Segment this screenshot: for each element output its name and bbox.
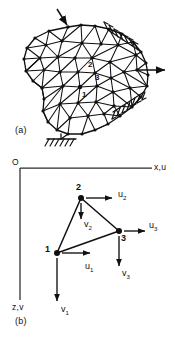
dof-sub-v2: 2 (89, 224, 92, 231)
mesh-diagram (22, 9, 165, 146)
mesh-node-label-2: 2 (88, 61, 92, 69)
dof-sub-u2: 2 (123, 194, 126, 201)
element-node-2 (78, 195, 84, 201)
element-node-label-2: 2 (76, 183, 81, 192)
dof-arrows (57, 198, 145, 301)
x-axis-label: x,u (154, 163, 166, 172)
figure-root: 2 3 1 (a) O x,u z,v 1 2 3 u1 v1 u2 v2 u3… (0, 0, 175, 339)
element-diagram (54, 195, 145, 301)
dof-sub-v3: 3 (127, 273, 130, 280)
element-node-1 (54, 250, 60, 256)
bottom-support (45, 134, 76, 146)
mesh-node-label-1: 1 (82, 91, 86, 99)
dof-label-u1: u1 (85, 262, 93, 273)
mesh-node-label-3: 3 (95, 74, 99, 82)
dof-label-v2: v2 (84, 220, 92, 231)
top-load-arrow (57, 9, 67, 25)
panel-a-caption: (a) (15, 126, 27, 135)
z-axis-label: z,v (12, 303, 24, 312)
global-axes (20, 168, 152, 300)
mesh-interior-edges (24, 25, 148, 134)
dof-label-u2: u2 (118, 190, 126, 201)
dof-label-v1: v1 (61, 305, 69, 316)
dof-label-u3: u3 (149, 221, 157, 232)
axis-origin-label: O (12, 158, 19, 167)
figure-canvas (0, 0, 175, 339)
dof-label-v3: v3 (122, 269, 130, 280)
dof-sub-u3: 3 (154, 225, 157, 232)
dof-sub-v1: 1 (66, 309, 69, 316)
panel-b-caption: (b) (15, 317, 27, 326)
element-node-label-1: 1 (45, 245, 50, 254)
element-node-label-3: 3 (121, 234, 126, 243)
dof-sub-u1: 1 (90, 266, 93, 273)
